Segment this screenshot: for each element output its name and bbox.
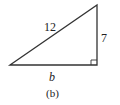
right-triangle xyxy=(10,5,97,65)
horizontal-leg-label: b xyxy=(49,71,55,83)
vertical-leg-label: 7 xyxy=(101,32,107,44)
hypotenuse-label: 12 xyxy=(44,21,56,33)
figure-caption: (b) xyxy=(46,88,59,99)
triangle-diagram xyxy=(0,0,120,105)
right-angle-marker xyxy=(91,60,97,65)
